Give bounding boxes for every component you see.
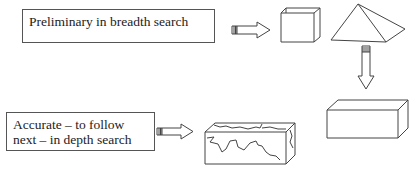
down-arrow-icon — [358, 46, 374, 89]
cracked-block-shape — [205, 123, 295, 164]
right-arrow-icon — [157, 124, 193, 139]
rectangular-block-shape — [327, 100, 408, 138]
pyramid-shape — [331, 4, 405, 42]
right-arrow-icon — [232, 22, 270, 38]
cube-shape — [281, 8, 320, 42]
